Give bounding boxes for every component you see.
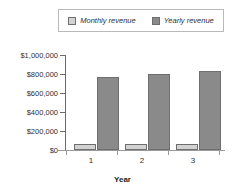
x-axis-title: Year (0, 176, 245, 184)
x-tick-label-1: 1 (81, 157, 101, 165)
y-tick-mark (60, 55, 65, 56)
y-tick-label-200000: $200,000 (27, 128, 58, 136)
x-tick-mark (117, 151, 118, 155)
x-tick-label-2: 2 (132, 157, 152, 165)
bar-yearly-revenue-year-2 (148, 74, 170, 150)
x-tick-label-3: 3 (183, 157, 203, 165)
x-tick-mark (219, 151, 220, 155)
x-tick-mark (168, 151, 169, 155)
y-axis-labels: $1,000,000 $800,000 $600,000 $400,000 $2… (0, 0, 58, 196)
y-tick-label-400000: $400,000 (27, 109, 58, 117)
legend-item-yearly-revenue: Yearly revenue (152, 17, 214, 25)
y-tick-mark (60, 93, 65, 94)
chart-legend: Monthly revenue Yearly revenue (58, 9, 224, 32)
legend-swatch-monthly-icon (68, 17, 76, 25)
y-tick-label-800000: $800,000 (27, 71, 58, 79)
x-axis-line (57, 150, 225, 151)
bar-chart: Monthly revenue Yearly revenue $1,000,00… (0, 0, 245, 196)
plot-area (66, 55, 220, 150)
legend-swatch-yearly-icon (152, 17, 160, 25)
y-tick-label-1000000: $1,000,000 (20, 52, 58, 60)
bar-yearly-revenue-year-1 (97, 77, 119, 150)
legend-label-monthly-revenue: Monthly revenue (80, 17, 135, 25)
y-tick-mark (60, 74, 65, 75)
y-tick-mark (60, 131, 65, 132)
legend-item-monthly-revenue: Monthly revenue (68, 17, 135, 25)
bar-yearly-revenue-year-3 (199, 71, 221, 150)
x-tick-mark (66, 151, 67, 155)
legend-label-yearly-revenue: Yearly revenue (164, 17, 214, 25)
y-tick-label-600000: $600,000 (27, 90, 58, 98)
y-tick-mark (60, 112, 65, 113)
